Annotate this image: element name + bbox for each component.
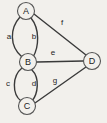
edge-label-c: c — [6, 79, 10, 88]
edge-label-d: d — [32, 79, 36, 88]
edge-label-g: g — [53, 76, 57, 85]
node-b-label: B — [25, 57, 31, 67]
edge-a[interactable] — [12, 17, 22, 57]
node-d-label: D — [89, 56, 96, 66]
node-a[interactable]: A — [18, 3, 35, 20]
node-layer: A B C D — [18, 3, 101, 115]
node-c-label: C — [24, 101, 31, 111]
graph-diagram: A B C D a b c d e f g — [0, 0, 107, 123]
graph-canvas: A B C D a b c d e f g — [0, 0, 107, 123]
node-c[interactable]: C — [19, 98, 36, 115]
edge-label-b: b — [32, 32, 37, 41]
edge-e[interactable] — [37, 61, 83, 62]
edge-label-a: a — [7, 32, 12, 41]
node-b[interactable]: B — [20, 54, 37, 71]
node-a-label: A — [23, 6, 29, 16]
node-d[interactable]: D — [84, 53, 101, 70]
edge-c[interactable] — [14, 68, 22, 101]
edge-label-e: e — [51, 48, 56, 57]
edge-g[interactable] — [35, 67, 86, 103]
edge-label-f: f — [61, 18, 64, 27]
